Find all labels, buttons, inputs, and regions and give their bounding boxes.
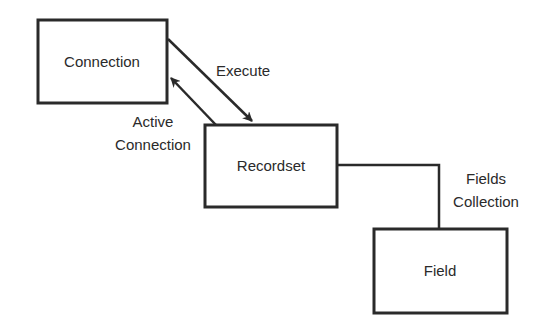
node-field-label: Field [424, 262, 457, 279]
node-connection-label: Connection [64, 53, 140, 70]
edge-fields-collection: Fields Collection [337, 165, 519, 229]
node-field: Field [374, 229, 507, 313]
node-recordset: Recordset [205, 125, 337, 207]
object-model-diagram: Connection Recordset Field Execute Activ… [0, 0, 544, 327]
fields-collection-connector [337, 165, 439, 229]
fields-collection-label-line2: Collection [453, 193, 519, 210]
active-connection-arrow [171, 78, 216, 125]
active-connection-label-line2: Connection [115, 136, 191, 153]
active-connection-label-line1: Active [133, 113, 174, 130]
execute-label: Execute [216, 62, 270, 79]
node-connection: Connection [38, 20, 167, 103]
node-recordset-label: Recordset [237, 157, 306, 174]
fields-collection-label-line1: Fields [466, 170, 506, 187]
execute-arrow [168, 39, 252, 121]
edge-execute: Execute [168, 39, 270, 121]
